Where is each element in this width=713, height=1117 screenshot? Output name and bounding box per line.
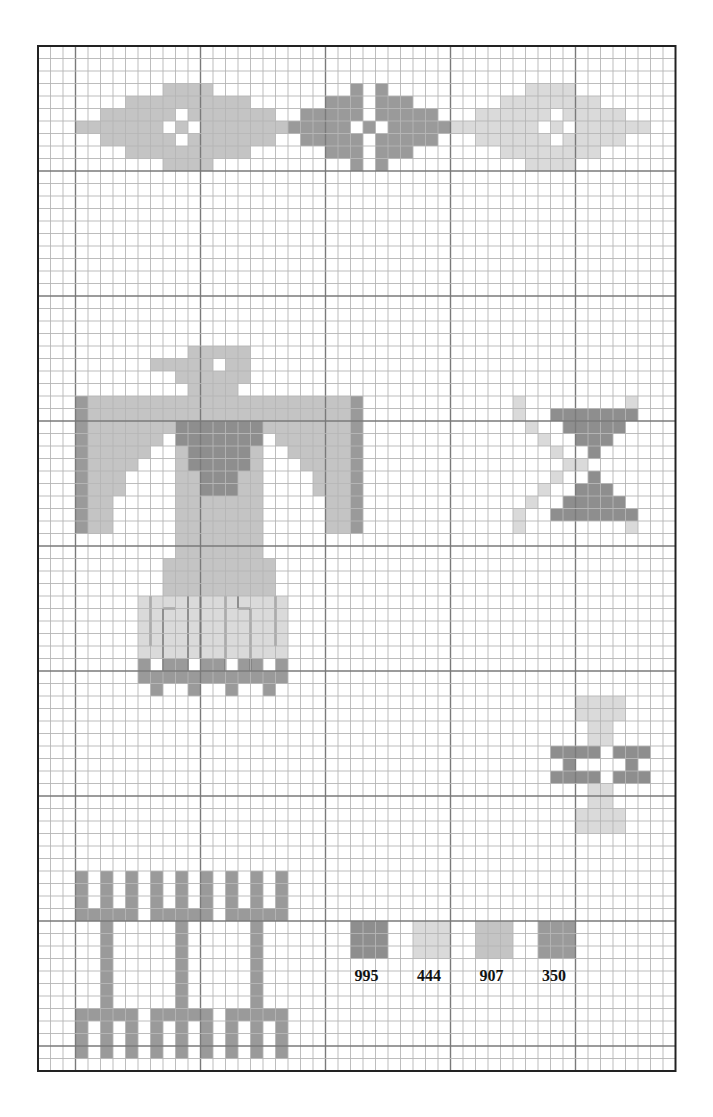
legend-label-444: 444 <box>417 967 441 985</box>
top-left-diamond <box>76 84 314 172</box>
legend-label-995: 995 <box>355 967 379 985</box>
legend-swatch-995 <box>351 921 389 959</box>
legend-label-907: 907 <box>480 967 504 985</box>
legend-swatch-444 <box>413 921 451 959</box>
legend-label-350: 350 <box>542 967 566 985</box>
tridents <box>76 871 289 1059</box>
cross-stitch-chart <box>0 0 713 1117</box>
legend-swatch-350 <box>538 921 576 959</box>
legend-swatch-907 <box>476 921 514 959</box>
